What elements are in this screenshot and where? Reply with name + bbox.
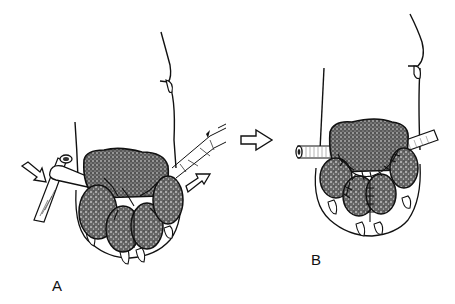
panel-label-a: A <box>52 277 62 294</box>
forceps-left <box>34 155 72 222</box>
leg-outline-left <box>75 122 78 178</box>
panel-label-b: B <box>311 251 321 268</box>
claw-a-3 <box>136 248 145 262</box>
leg-outline-left-b <box>320 68 324 150</box>
curved-arrow-left-icon <box>22 162 46 182</box>
curved-arrow-right-icon <box>186 174 210 192</box>
leg-outline-right <box>160 32 176 168</box>
dewclaw-a <box>166 80 172 93</box>
leg-outline-right-b <box>408 14 423 150</box>
dewclaw-b <box>414 66 420 79</box>
panel-a <box>22 32 226 264</box>
forceps-right <box>172 124 226 178</box>
right-arrow-icon <box>241 130 272 150</box>
panel-b <box>296 14 438 236</box>
paw-surgery-diagram <box>0 0 455 304</box>
